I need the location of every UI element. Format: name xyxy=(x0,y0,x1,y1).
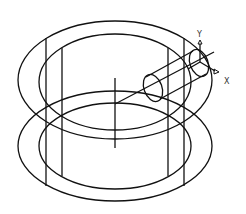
wireframe-drawing: Y X xyxy=(0,0,246,214)
ucs-x-label: X xyxy=(224,77,230,86)
drawing-canvas: Y X xyxy=(0,0,246,214)
cylinder xyxy=(115,47,214,104)
ucs-y-arrow-icon xyxy=(198,40,202,44)
cylinder-bottom-edge xyxy=(160,74,206,99)
ucs-x-arrow-icon xyxy=(214,69,219,74)
cylinder-near-end xyxy=(140,72,166,104)
ucs-y-label: Y xyxy=(196,30,202,39)
